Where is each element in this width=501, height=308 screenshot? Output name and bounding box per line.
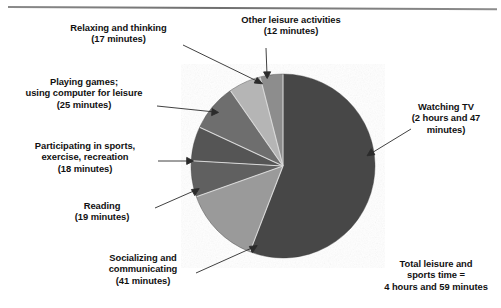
- callout-arrow-sports: [158, 157, 194, 164]
- pie-slice: [191, 127, 283, 166]
- pie-slice-separators: [191, 74, 375, 258]
- label-relaxing-and-thinking: Relaxing and thinking (17 minutes): [46, 22, 191, 45]
- callout-arrow-playing-games: [157, 106, 219, 116]
- pie-slice-divider: [230, 91, 283, 166]
- pie-slice: [196, 166, 283, 252]
- pie-slice-divider: [200, 127, 283, 166]
- pie-slice-divider: [196, 166, 283, 197]
- pie-slice: [260, 74, 283, 166]
- pie-slice-divider: [250, 166, 283, 252]
- pie-slice-divider: [191, 161, 283, 166]
- pie-outer-rim: [191, 74, 375, 258]
- pie-slice: [230, 77, 283, 166]
- label-other-leisure-activities: Other leisure activities (12 minutes): [222, 14, 360, 37]
- pie-slice-group: [191, 74, 375, 258]
- callout-arrow-relaxing: [183, 45, 263, 84]
- label-total-leisure-time: Total leisure and sports time = 4 hours …: [374, 258, 498, 292]
- callout-arrow-other-leisure: [264, 48, 271, 79]
- label-socializing-and-communicating: Socializing and communicating (41 minute…: [88, 252, 198, 286]
- label-participating-in-sports: Participating in sports, exercise, recre…: [13, 140, 157, 174]
- pie-chart-figure: Relaxing and thinking (17 minutes) Other…: [0, 0, 501, 308]
- callout-arrow-reading: [155, 189, 199, 208]
- pie-slice: [250, 74, 375, 258]
- pie-slice-divider: [260, 77, 283, 166]
- pie-slice: [200, 91, 283, 166]
- label-watching-tv: Watching TV (2 hours and 47 minutes): [396, 101, 496, 135]
- callout-arrow-socializing: [196, 246, 257, 273]
- label-reading: Reading (19 minutes): [52, 200, 152, 223]
- label-playing-games: Playing games; using computer for leisur…: [11, 76, 157, 110]
- pie-slice: [191, 161, 283, 197]
